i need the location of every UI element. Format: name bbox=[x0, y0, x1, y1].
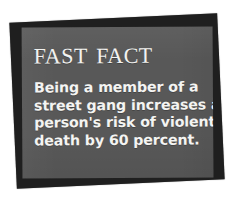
fact-card-body: Being a member of a street gang increase… bbox=[34, 78, 213, 149]
fact-body-line: Being a member of a bbox=[34, 78, 213, 97]
fact-card: Fast Fact Being a member of a street gan… bbox=[22, 26, 214, 178]
fact-body-line: street gang increases a bbox=[34, 96, 213, 115]
fact-body-line: person's risk of violent bbox=[34, 114, 213, 133]
fact-card-content: Fast Fact Being a member of a street gan… bbox=[22, 26, 214, 150]
fact-card-scene: Fast Fact Being a member of a street gan… bbox=[0, 0, 239, 202]
fact-body-line: death by 60 percent. bbox=[34, 131, 213, 150]
fact-card-title: Fast Fact bbox=[34, 36, 213, 70]
